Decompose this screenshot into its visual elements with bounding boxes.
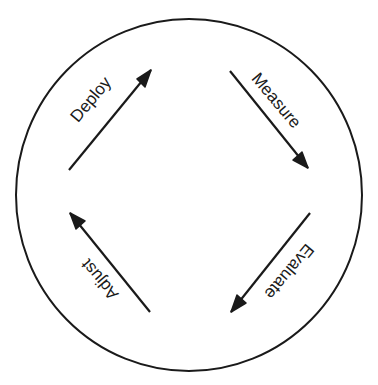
step-adjust: Adjust bbox=[70, 213, 150, 312]
step-deploy: Deploy bbox=[67, 70, 151, 170]
step-label-deploy: Deploy bbox=[67, 73, 116, 126]
step-measure: Measure bbox=[230, 69, 308, 168]
cycle-circle bbox=[16, 19, 362, 371]
step-evaluate: Evaluate bbox=[231, 213, 318, 312]
step-label-evaluate: Evaluate bbox=[261, 240, 318, 303]
cycle-diagram: Deploy Measure Evaluate Adjust bbox=[0, 0, 378, 385]
step-label-measure: Measure bbox=[248, 69, 305, 132]
step-label-adjust: Adjust bbox=[77, 255, 122, 304]
